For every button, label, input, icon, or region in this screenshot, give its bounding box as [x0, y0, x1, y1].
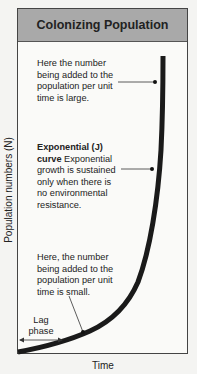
annotation-large-growth: Here the number being added to the popul… [37, 58, 117, 104]
lag-arrow-left-head [19, 338, 24, 343]
annotation-exponential-curve: Exponential (J) curve Exponential growth… [37, 142, 121, 212]
lag-label-line2: phase [26, 326, 56, 337]
annotation-small-growth: Here, the number being added to the popu… [37, 252, 121, 298]
lag-label-line1: Lag [26, 315, 56, 326]
bottom-pointer-line [69, 296, 83, 332]
middle-pointer-dot [150, 167, 154, 171]
x-axis-label: Time [92, 360, 114, 371]
y-axis-label: Population numbers (N) [3, 137, 14, 243]
lag-phase-label: Lag phase [26, 315, 56, 337]
top-pointer-dot [153, 80, 157, 84]
bottom-pointer-dot [81, 330, 85, 334]
